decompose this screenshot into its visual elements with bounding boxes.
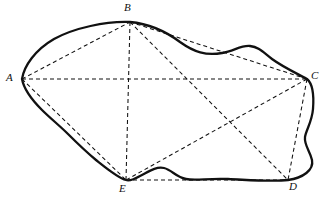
vertex-label-c: C: [311, 70, 318, 81]
chord-group: [22, 22, 307, 180]
chord-c-e: [126, 79, 307, 180]
vertex-label-d: D: [289, 181, 297, 192]
vertex-label-b: B: [124, 2, 131, 13]
vertex-label-e: E: [119, 183, 126, 194]
region-outline: [22, 22, 313, 181]
figure-canvas: A B C D E: [0, 0, 324, 202]
chord-b-d: [130, 22, 288, 180]
chord-a-e: [22, 79, 126, 180]
chord-b-e: [126, 22, 130, 180]
vertex-label-a: A: [6, 72, 13, 83]
irregular-region-diagram: [0, 0, 324, 202]
chord-c-d: [288, 79, 307, 180]
chord-b-c: [130, 22, 307, 79]
